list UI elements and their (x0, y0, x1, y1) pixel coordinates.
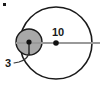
geometry-figure: 10 3 (0, 0, 105, 87)
circle-diagram-svg: 10 3 (0, 0, 105, 87)
radius-label-3: 3 (5, 57, 11, 69)
corner-speck-artifact (3, 3, 6, 6)
large-circle-center-dot (53, 40, 59, 46)
small-circle-center-dot (26, 39, 31, 44)
radius-label-10: 10 (52, 26, 64, 38)
